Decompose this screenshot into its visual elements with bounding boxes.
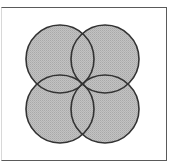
four-circle-diagram	[0, 0, 174, 165]
